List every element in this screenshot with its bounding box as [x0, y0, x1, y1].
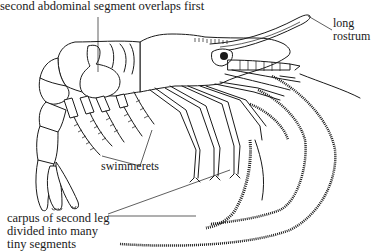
- carpus-callout-line: [108, 170, 230, 214]
- eye: [220, 52, 228, 60]
- antenna-3: [250, 104, 288, 140]
- label-swimmerets: swimmerets: [101, 160, 159, 173]
- rostrum-callout-line: [308, 16, 332, 30]
- label-carpus-second-leg: carpus of second leg divided into many t…: [7, 212, 109, 251]
- label-second-abdominal-segment: second abdominal segment overlaps first: [0, 0, 204, 13]
- antenna-2: [210, 90, 306, 224]
- second-leg-carpus: [206, 140, 250, 228]
- swimmerets: [64, 92, 154, 155]
- label-carpus-line-3: tiny segments: [7, 238, 109, 251]
- label-long-rostrum: long rostrum: [333, 17, 370, 43]
- walking-legs: [150, 82, 284, 200]
- label-rostrum-line-2: rostrum: [333, 30, 370, 43]
